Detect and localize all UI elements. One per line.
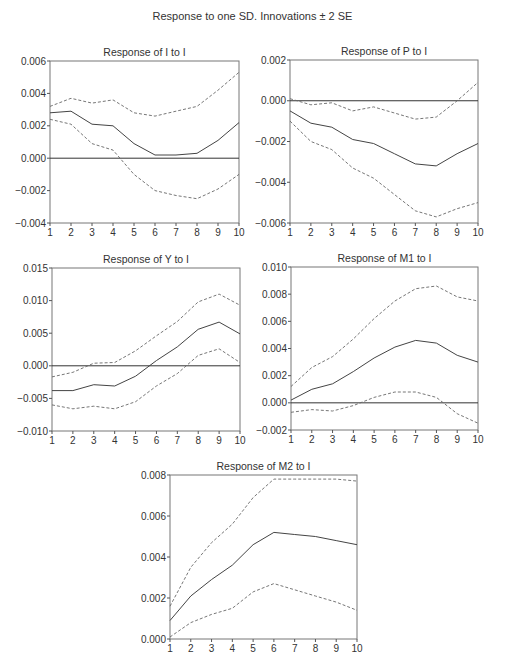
x-tick-label: 8 — [194, 227, 200, 238]
response-line — [50, 111, 239, 155]
y-tick-label: 0.010 — [23, 295, 48, 306]
plot-frame — [50, 61, 239, 223]
y-tick-label: 0.002 — [261, 55, 286, 66]
x-tick-label: 7 — [292, 643, 298, 654]
y-tick-label: −0.005 — [17, 393, 48, 404]
x-tick-label: 1 — [47, 227, 53, 238]
confidence-band-line — [52, 349, 240, 409]
x-tick-label: 10 — [351, 643, 363, 654]
plot-frame — [170, 475, 357, 639]
x-tick-label: 5 — [371, 227, 377, 238]
x-tick-label: 9 — [216, 435, 222, 446]
x-tick-label: 2 — [308, 227, 314, 238]
panel-title: Response of M1 to I — [338, 252, 432, 264]
panel-title: Response of P to I — [341, 45, 427, 57]
y-tick-label: 0.000 — [21, 153, 46, 164]
panel-m1-to-i: Response of M1 to I−0.0020.0000.0020.004… — [256, 252, 484, 445]
x-tick-label: 2 — [68, 227, 74, 238]
x-tick-label: 6 — [152, 227, 158, 238]
x-tick-label: 6 — [271, 643, 277, 654]
plot-frame — [52, 268, 240, 431]
x-tick-label: 10 — [472, 227, 484, 238]
y-tick-label: −0.006 — [255, 218, 286, 229]
x-tick-label: 10 — [472, 434, 484, 445]
x-tick-label: 1 — [288, 434, 294, 445]
y-tick-label: 0.006 — [21, 56, 46, 67]
x-tick-label: 4 — [351, 434, 357, 445]
y-tick-label: 0.015 — [23, 263, 48, 274]
panel-title: Response of I to I — [103, 46, 185, 58]
y-tick-label: 0.002 — [141, 593, 166, 604]
confidence-band-line — [170, 479, 357, 606]
x-tick-label: 3 — [209, 643, 215, 654]
y-tick-label: 0.010 — [262, 262, 287, 273]
x-tick-label: 9 — [333, 643, 339, 654]
x-tick-label: 9 — [215, 227, 221, 238]
x-tick-label: 6 — [392, 227, 398, 238]
confidence-band-line — [170, 584, 357, 637]
confidence-band-line — [50, 119, 239, 198]
x-tick-label: 4 — [112, 435, 118, 446]
plot-frame — [290, 60, 478, 223]
y-tick-label: 0.006 — [141, 511, 166, 522]
confidence-band-line — [291, 392, 478, 423]
x-tick-label: 4 — [110, 227, 116, 238]
x-tick-label: 7 — [413, 227, 419, 238]
confidence-band-line — [50, 72, 239, 116]
x-tick-label: 2 — [188, 643, 194, 654]
x-tick-label: 6 — [392, 434, 398, 445]
y-tick-label: 0.004 — [262, 343, 287, 354]
x-tick-label: 1 — [287, 227, 293, 238]
y-tick-label: −0.002 — [15, 185, 46, 196]
y-tick-label: 0.000 — [262, 397, 287, 408]
response-line — [291, 340, 478, 400]
y-tick-label: 0.000 — [261, 95, 286, 106]
x-tick-label: 9 — [454, 434, 460, 445]
y-tick-label: 0.008 — [262, 289, 287, 300]
x-tick-label: 8 — [195, 435, 201, 446]
response-line — [170, 532, 357, 620]
x-tick-label: 8 — [433, 227, 439, 238]
panel-i-to-i: Response of I to I−0.004−0.0020.0000.002… — [15, 46, 245, 238]
y-tick-label: 0.002 — [262, 370, 287, 381]
x-tick-label: 6 — [154, 435, 160, 446]
x-tick-label: 3 — [329, 227, 335, 238]
x-tick-label: 9 — [454, 227, 460, 238]
impulse-response-figure: Response of I to I−0.004−0.0020.0000.002… — [0, 0, 505, 668]
confidence-band-line — [291, 286, 478, 387]
x-tick-label: 1 — [49, 435, 55, 446]
y-tick-label: 0.008 — [141, 470, 166, 481]
x-tick-label: 10 — [234, 435, 246, 446]
y-tick-label: 0.004 — [21, 88, 46, 99]
x-tick-label: 5 — [133, 435, 139, 446]
y-tick-label: 0.004 — [141, 552, 166, 563]
x-tick-label: 3 — [89, 227, 95, 238]
panel-y-to-i: Response of Y to I−0.010−0.0050.0000.005… — [17, 253, 246, 446]
x-tick-label: 8 — [434, 434, 440, 445]
y-tick-label: −0.004 — [255, 177, 286, 188]
x-tick-label: 4 — [230, 643, 236, 654]
confidence-band-line — [290, 121, 478, 217]
y-tick-label: 0.002 — [21, 120, 46, 131]
y-tick-label: −0.002 — [256, 425, 287, 436]
x-tick-label: 5 — [250, 643, 256, 654]
x-tick-label: 2 — [70, 435, 76, 446]
y-tick-label: −0.002 — [255, 136, 286, 147]
y-tick-label: 0.005 — [23, 328, 48, 339]
panel-title: Response of M2 to I — [217, 460, 311, 472]
y-tick-label: −0.004 — [15, 218, 46, 229]
x-tick-label: 10 — [233, 227, 245, 238]
plot-frame — [291, 267, 478, 430]
panel-p-to-i: Response of P to I−0.006−0.004−0.0020.00… — [255, 45, 484, 238]
y-tick-label: 0.000 — [141, 634, 166, 645]
confidence-band-line — [52, 294, 240, 377]
x-tick-label: 3 — [91, 435, 97, 446]
x-tick-label: 3 — [330, 434, 336, 445]
x-tick-label: 7 — [175, 435, 181, 446]
response-line — [290, 111, 478, 166]
y-tick-label: 0.006 — [262, 316, 287, 327]
x-tick-label: 7 — [413, 434, 419, 445]
response-line — [52, 322, 240, 391]
y-tick-label: −0.010 — [17, 426, 48, 437]
x-tick-label: 5 — [131, 227, 137, 238]
